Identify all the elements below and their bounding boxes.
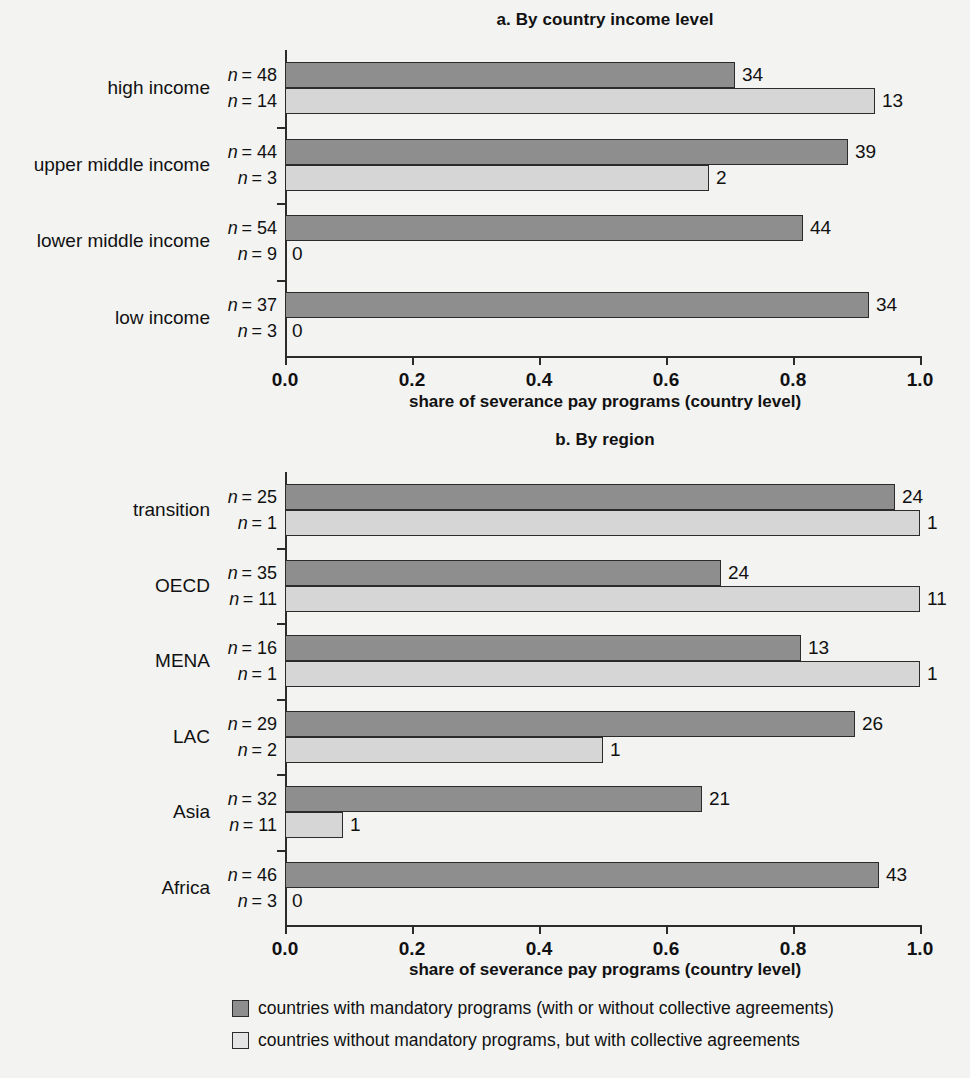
bar-value-label: 24 xyxy=(728,563,749,582)
bar-light[interactable] xyxy=(285,812,343,838)
sample-size-label: n = 16 xyxy=(228,639,277,657)
bar-light[interactable] xyxy=(285,661,920,687)
bar-dark[interactable] xyxy=(285,786,702,812)
figure-severance-pay-programs: a. By country income level 0.00.20.40.60… xyxy=(0,0,970,1078)
bar-value-label: 1 xyxy=(610,740,621,759)
bar-value-label: 2 xyxy=(716,168,727,187)
sample-size-label: n = 3 xyxy=(238,322,277,340)
y-tick xyxy=(277,280,285,282)
legend-swatch-light xyxy=(232,1032,249,1049)
x-axis-line xyxy=(285,925,922,927)
x-tick xyxy=(920,925,922,934)
y-tick xyxy=(277,203,285,205)
bar-dark[interactable] xyxy=(285,560,721,586)
sample-size-label: n = 37 xyxy=(228,296,277,314)
bar-value-label: 1 xyxy=(927,664,938,683)
panel-a-plot-area: 0.00.20.40.60.81.034n = 4813n = 14high i… xyxy=(285,50,920,356)
x-tick-label: 1.0 xyxy=(885,369,955,391)
x-tick xyxy=(920,356,922,365)
category-label: OECD xyxy=(155,576,210,595)
bar-value-label: 34 xyxy=(876,295,897,314)
bar-dark[interactable] xyxy=(285,484,895,510)
sample-size-label: n = 1 xyxy=(238,514,277,532)
y-tick xyxy=(277,548,285,550)
sample-size-label: n = 46 xyxy=(228,866,277,884)
bar-value-label: 0 xyxy=(292,321,303,340)
sample-size-label: n = 25 xyxy=(228,488,277,506)
category-label: Asia xyxy=(173,802,210,821)
x-tick-label: 0.6 xyxy=(631,369,701,391)
legend-label: countries with mandatory programs (with … xyxy=(258,1000,834,1018)
x-tick xyxy=(539,356,541,365)
bar-light[interactable] xyxy=(285,88,875,114)
legend-swatch-dark xyxy=(232,1000,249,1017)
sample-size-label: n = 1 xyxy=(238,665,277,683)
bar-light[interactable] xyxy=(285,510,920,536)
sample-size-label: n = 29 xyxy=(228,715,277,733)
x-tick-label: 0.8 xyxy=(758,369,828,391)
category-label: MENA xyxy=(155,651,210,670)
x-tick xyxy=(412,356,414,365)
panel-b-title: b. By region xyxy=(285,430,925,450)
panel-b-x-axis-title: share of severance pay programs (country… xyxy=(285,960,925,980)
bar-value-label: 11 xyxy=(927,589,947,608)
x-tick-label: 0.4 xyxy=(504,938,574,960)
bar-value-label: 43 xyxy=(886,865,907,884)
x-axis-line xyxy=(285,356,922,358)
x-tick xyxy=(793,925,795,934)
bar-light[interactable] xyxy=(285,165,709,191)
panel-a-title: a. By country income level xyxy=(285,10,925,30)
bar-value-label: 34 xyxy=(742,65,763,84)
y-tick xyxy=(277,127,285,129)
category-label: low income xyxy=(115,308,210,327)
bar-dark[interactable] xyxy=(285,635,801,661)
legend-item[interactable]: countries without mandatory programs, bu… xyxy=(232,1032,800,1050)
bar-value-label: 13 xyxy=(882,91,903,110)
sample-size-label: n = 11 xyxy=(229,816,277,834)
bar-dark[interactable] xyxy=(285,862,879,888)
x-tick-label: 0.8 xyxy=(758,938,828,960)
legend-label: countries without mandatory programs, bu… xyxy=(258,1032,800,1050)
sample-size-label: n = 44 xyxy=(228,143,277,161)
x-tick-label: 0.2 xyxy=(377,938,447,960)
bar-value-label: 44 xyxy=(810,218,831,237)
x-tick xyxy=(285,356,287,365)
category-label: lower middle income xyxy=(37,231,210,250)
x-tick-label: 0.4 xyxy=(504,369,574,391)
x-tick xyxy=(793,356,795,365)
bar-value-label: 26 xyxy=(862,714,883,733)
panel-a-x-axis-title: share of severance pay programs (country… xyxy=(285,392,925,412)
x-tick xyxy=(666,925,668,934)
category-label: Africa xyxy=(161,878,210,897)
bar-value-label: 0 xyxy=(292,244,303,263)
panel-b-plot-area: 0.00.20.40.60.81.024n = 251n = 1transiti… xyxy=(285,472,920,925)
bar-value-label: 13 xyxy=(808,638,829,657)
x-tick-label: 0.0 xyxy=(250,369,320,391)
bar-value-label: 39 xyxy=(855,142,876,161)
bar-dark[interactable] xyxy=(285,62,735,88)
category-label: upper middle income xyxy=(34,155,210,174)
bar-light[interactable] xyxy=(285,737,603,763)
bar-value-label: 1 xyxy=(927,513,938,532)
bar-dark[interactable] xyxy=(285,711,855,737)
sample-size-label: n = 3 xyxy=(238,892,277,910)
legend-item[interactable]: countries with mandatory programs (with … xyxy=(232,1000,834,1018)
y-axis-line xyxy=(285,472,287,927)
sample-size-label: n = 9 xyxy=(238,245,277,263)
sample-size-label: n = 48 xyxy=(228,66,277,84)
bar-dark[interactable] xyxy=(285,215,803,241)
sample-size-label: n = 32 xyxy=(228,790,277,808)
bar-value-label: 1 xyxy=(350,815,361,834)
x-tick-label: 1.0 xyxy=(885,938,955,960)
bar-dark[interactable] xyxy=(285,292,869,318)
y-tick xyxy=(277,774,285,776)
bar-value-label: 24 xyxy=(902,487,923,506)
y-tick xyxy=(277,699,285,701)
bar-light[interactable] xyxy=(285,586,920,612)
y-tick xyxy=(277,850,285,852)
bar-dark[interactable] xyxy=(285,139,848,165)
x-tick xyxy=(539,925,541,934)
x-tick-label: 0.6 xyxy=(631,938,701,960)
x-tick xyxy=(412,925,414,934)
bar-value-label: 0 xyxy=(292,891,303,910)
